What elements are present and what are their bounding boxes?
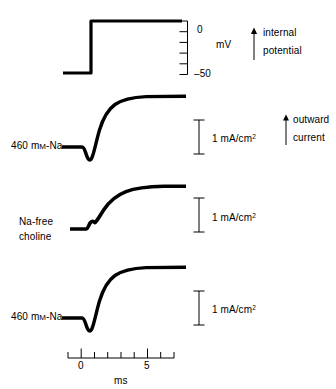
scale-value-middle: 1 mA/cm	[212, 212, 252, 223]
current-scale-label-top: 1 mA/cm2	[212, 131, 256, 144]
time-axis-tick-label-0: 0	[78, 360, 84, 371]
trace-label-460mm-na-top: 460 mM-Na	[11, 140, 63, 152]
internal-potential-arrow-icon	[249, 27, 259, 61]
voltage-label-zero: 0	[197, 24, 203, 35]
label-460-prefix-b: 460	[11, 311, 31, 322]
current-scale-label-middle: 1 mA/cm2	[212, 210, 256, 223]
scale-sup-middle: 2	[252, 212, 256, 219]
current-scale-label-bottom: 1 mA/cm2	[212, 302, 256, 315]
current-scale-bar-bottom	[192, 289, 206, 327]
membrane-potential-trace	[55, 10, 185, 82]
time-axis-unit-label: ms	[114, 375, 128, 386]
voltage-label-minus-fifty: –50	[194, 68, 211, 79]
internal-potential-note-line1: internal	[263, 27, 297, 38]
trace-label-460mm-na-bottom: 460 mM-Na	[11, 311, 63, 323]
current-trace-460mm-na-bottom	[60, 263, 188, 337]
trace-label-na-free-choline-line1: Na-free	[19, 216, 53, 227]
scale-sup-top: 2	[252, 133, 256, 140]
label-460-prefix: 460	[11, 140, 31, 151]
voltage-unit-label: mV	[216, 39, 231, 50]
scale-value-bottom: 1 mA/cm	[212, 304, 252, 315]
trace-label-na-free-choline-line2: choline	[19, 231, 51, 242]
outward-current-note-line2: current	[293, 132, 325, 143]
current-trace-460mm-na-top	[60, 92, 188, 166]
internal-potential-note-line2: potential	[263, 45, 302, 56]
current-trace-na-free-choline	[60, 182, 188, 244]
scale-value-top: 1 mA/cm	[212, 133, 252, 144]
time-axis-ruler	[64, 345, 179, 361]
scale-sup-bottom: 2	[252, 304, 256, 311]
figure-canvas: 0 –50 mV internal potential 460 mM-Na 1 …	[0, 0, 336, 389]
outward-current-arrow-icon	[281, 114, 291, 146]
time-axis-tick-label-5: 5	[144, 360, 150, 371]
current-scale-bar-middle	[192, 196, 206, 234]
current-scale-bar-top	[192, 118, 206, 156]
outward-current-note-line1: outward	[293, 114, 329, 125]
